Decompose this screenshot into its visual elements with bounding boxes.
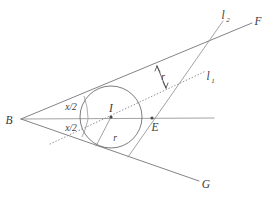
arrow-head-up: [155, 66, 160, 72]
ray-bg: [21, 119, 199, 181]
label-center-i: I: [108, 102, 114, 114]
label-radius-lower: r: [113, 133, 117, 143]
label-line-l1: l 1: [206, 70, 214, 85]
geometry-canvas: B F G I E x/2 x/2 r r l 1 l 2: [0, 0, 274, 206]
label-line-l1-base: l: [206, 70, 209, 82]
geometry-figure: B F G I E x/2 x/2 r r l 1 l 2: [0, 0, 274, 206]
label-line-l1-subscript: 1: [211, 77, 215, 85]
label-ray-g: G: [202, 178, 211, 190]
point-marker-i: [109, 115, 112, 118]
label-radius-upper: r: [161, 72, 165, 82]
label-angle-lower: x/2: [64, 123, 77, 133]
point-marker-e: [150, 116, 153, 119]
label-angle-upper: x/2: [64, 102, 77, 112]
arrow-head-down: [163, 82, 168, 88]
label-line-l2-base: l: [221, 9, 224, 21]
line-l2: [128, 21, 223, 157]
angle-bisector-be: [21, 118, 214, 119]
radius-segment-lower: [96, 117, 111, 146]
label-vertex-b: B: [5, 114, 12, 126]
label-ray-f: F: [253, 15, 262, 27]
label-point-e: E: [150, 121, 158, 133]
ray-bf: [21, 23, 252, 119]
label-line-l2-subscript: 2: [226, 16, 230, 24]
